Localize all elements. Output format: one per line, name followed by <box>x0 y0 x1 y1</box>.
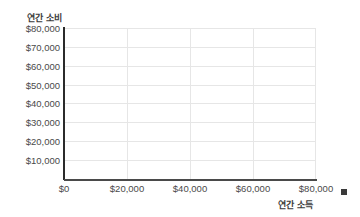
x-axis-line <box>64 179 317 181</box>
x-tick-label: $80,000 <box>299 183 333 194</box>
y-tick-label: $80,000 <box>2 23 60 34</box>
y-tick-label: $40,000 <box>2 98 60 109</box>
y-tick-label: $70,000 <box>2 42 60 53</box>
x-tick-label: $20,000 <box>110 183 144 194</box>
gridlines <box>64 28 316 179</box>
y-tick-label: $50,000 <box>2 80 60 91</box>
y-axis-line <box>63 27 65 180</box>
y-tick-label: $60,000 <box>2 61 60 72</box>
resize-handle-icon[interactable] <box>341 189 347 195</box>
x-axis-title: 연간 소득 <box>278 198 314 211</box>
x-tick-label: $40,000 <box>173 183 207 194</box>
plot-area <box>64 28 316 179</box>
y-tick-label: $10,000 <box>2 155 60 166</box>
x-tick-label: $0 <box>59 183 70 194</box>
chart-container: 연간 소비 $80 <box>0 0 360 217</box>
y-tick-label: $20,000 <box>2 136 60 147</box>
x-tick-label: $60,000 <box>236 183 270 194</box>
x-axis-tick-labels: $0 $20,000 $40,000 $60,000 $80,000 <box>0 183 360 197</box>
y-tick-label: $30,000 <box>2 117 60 128</box>
